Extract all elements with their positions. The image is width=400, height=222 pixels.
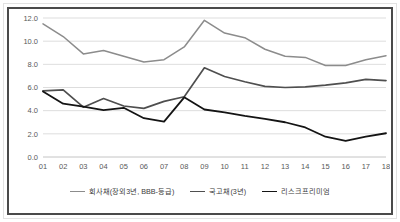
y-tick-label: 6.0 [28, 83, 38, 92]
gridlines [43, 18, 386, 157]
x-tick-label: 13 [281, 162, 289, 171]
legend-label: 리스크프리미엄 [281, 188, 330, 195]
y-tick-label: 4.0 [28, 106, 38, 115]
legend-label: 국고채(3년) [209, 188, 246, 195]
legend-line-swatch [70, 191, 85, 192]
legend-label: 회사채(장외3년, BBB-등급) [89, 188, 175, 195]
y-tick-label: 10.0 [23, 37, 38, 46]
legend-item[interactable]: 회사채(장외3년, BBB-등급) [70, 188, 175, 195]
x-tick-label: 12 [261, 162, 269, 171]
x-tick-label: 04 [99, 162, 107, 171]
legend-item[interactable]: 리스크프리미엄 [262, 188, 330, 195]
series-line [43, 20, 386, 65]
legend-line-swatch [190, 191, 205, 192]
x-tick-label: 17 [362, 162, 370, 171]
x-tick-label: 10 [220, 162, 228, 171]
y-tick-label: 8.0 [28, 60, 38, 69]
chart-area: 0.02.04.06.08.010.012.0 0102030405060708… [10, 10, 390, 212]
x-tick-label: 08 [180, 162, 188, 171]
line-plot: 0.02.04.06.08.010.012.0 0102030405060708… [10, 10, 390, 185]
legend-line-swatch [262, 191, 277, 192]
x-axis-tick-labels: 010203040506070809101112131415161718 [39, 162, 390, 171]
x-tick-label: 15 [321, 162, 329, 171]
x-tick-label: 18 [382, 162, 390, 171]
x-tick-label: 01 [39, 162, 47, 171]
x-tick-label: 09 [200, 162, 208, 171]
series-line [43, 68, 386, 109]
y-axis-tick-labels: 0.02.04.06.08.010.012.0 [23, 14, 38, 162]
x-tick-label: 03 [79, 162, 87, 171]
legend-item[interactable]: 국고채(3년) [190, 188, 246, 195]
x-tick-label: 14 [301, 162, 309, 171]
y-tick-label: 2.0 [28, 130, 38, 139]
y-tick-label: 12.0 [23, 14, 38, 23]
x-tick-label: 05 [120, 162, 128, 171]
x-tick-label: 16 [341, 162, 349, 171]
chart-legend: 회사채(장외3년, BBB-등급)국고채(3년)리스크프리미엄 [10, 182, 390, 202]
x-tick-label: 11 [241, 162, 249, 171]
data-series-group [43, 20, 386, 140]
x-tick-label: 06 [140, 162, 148, 171]
series-line [43, 92, 386, 141]
x-tick-label: 02 [59, 162, 67, 171]
y-tick-label: 0.0 [28, 153, 38, 162]
chart-figure: 0.02.04.06.08.010.012.0 0102030405060708… [0, 0, 400, 222]
x-tick-label: 07 [160, 162, 168, 171]
